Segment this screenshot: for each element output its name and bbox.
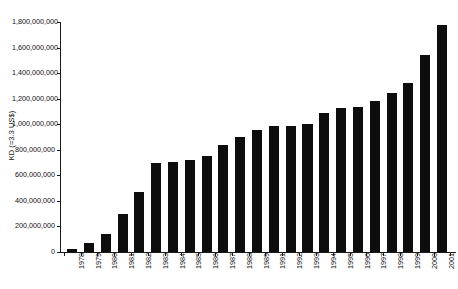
- y-axis-tick-mark: [57, 22, 61, 23]
- y-axis-tick-mark: [57, 124, 61, 125]
- bar: [101, 234, 111, 252]
- y-axis-tick-label: 1,600,000,000: [12, 44, 55, 52]
- bar: [118, 214, 128, 252]
- y-axis-tick-label: 1,800,000,000: [12, 18, 55, 26]
- x-axis-tick-label: 2000: [429, 253, 441, 287]
- y-axis-tick-mark: [57, 201, 61, 202]
- y-axis-tick-label: 400,000,000: [12, 197, 55, 205]
- y-axis-tick-label: 1,200,000,000: [12, 95, 55, 103]
- bar: [286, 126, 296, 253]
- x-axis-tick-label: 1988: [244, 253, 256, 287]
- y-axis-tick-mark: [57, 226, 61, 227]
- y-axis-tick-mark: [57, 150, 61, 151]
- y-axis-tick-mark: [57, 99, 61, 100]
- bar: [134, 192, 144, 252]
- x-axis-tick-label: 1980: [109, 253, 121, 287]
- x-axis-tick-labels: 1978197919801981198219831984198519861987…: [60, 253, 456, 289]
- x-axis-tick-label: 1999: [412, 253, 424, 287]
- bar: [151, 163, 161, 252]
- y-axis-tick-label: 1,000,000,000: [12, 120, 55, 128]
- x-axis-tick-label: 1987: [227, 253, 239, 287]
- y-axis-tick-mark: [57, 48, 61, 49]
- bar: [336, 108, 346, 252]
- x-axis-tick-label: 1994: [328, 253, 340, 287]
- x-axis-tick-label: 1981: [126, 253, 138, 287]
- x-axis-tick-label: 1983: [160, 253, 172, 287]
- bar: [202, 156, 212, 252]
- bar: [185, 160, 195, 252]
- y-axis-line: [60, 22, 61, 253]
- bar: [437, 25, 447, 252]
- y-axis-tick-label: 0: [12, 248, 55, 256]
- x-axis-tick-label: 1979: [93, 253, 105, 287]
- bar: [302, 124, 312, 252]
- bar: [403, 83, 413, 252]
- plot-area: [60, 22, 456, 252]
- bar: [252, 130, 262, 252]
- x-axis-tick-label: 1986: [210, 253, 222, 287]
- bar: [370, 101, 380, 252]
- x-axis-tick-label: 1998: [395, 253, 407, 287]
- x-axis-tick-label: 1995: [345, 253, 357, 287]
- bar: [168, 162, 178, 252]
- bar: [218, 145, 228, 252]
- y-axis-tick-mark: [57, 73, 61, 74]
- y-axis-tick-label: 800,000,000: [12, 146, 55, 154]
- x-axis-tick-label: 2001: [446, 253, 458, 287]
- bar: [420, 55, 430, 252]
- x-axis-tick-label: 1982: [143, 253, 155, 287]
- bar: [387, 93, 397, 252]
- x-axis-tick-label: 1991: [277, 253, 289, 287]
- y-axis-tick-label: 600,000,000: [12, 171, 55, 179]
- x-axis-tick-label: 1993: [311, 253, 323, 287]
- x-axis-tick-label: 1997: [378, 253, 390, 287]
- bar: [67, 249, 77, 252]
- x-axis-tick-label: 1996: [362, 253, 374, 287]
- bar: [319, 113, 329, 252]
- y-axis-tick-mark: [57, 175, 61, 176]
- bar: [353, 107, 363, 252]
- x-axis-tick-label: 1989: [261, 253, 273, 287]
- bar: [84, 243, 94, 252]
- y-axis-tick-label: 200,000,000: [12, 222, 55, 230]
- y-axis-tick-label: 1,400,000,000: [12, 69, 55, 77]
- x-axis-tick-label: 1978: [76, 253, 88, 287]
- x-axis-tick-label: 1992: [294, 253, 306, 287]
- x-axis-tick-label: 1985: [193, 253, 205, 287]
- bar: [269, 126, 279, 252]
- bar: [235, 137, 245, 252]
- bar-chart: KD (=3.3 US$) 1,800,000,0001,600,000,000…: [0, 0, 458, 289]
- x-axis-tick-label: 1984: [177, 253, 189, 287]
- y-axis-tick-labels: 1,800,000,0001,600,000,0001,400,000,0001…: [14, 0, 57, 289]
